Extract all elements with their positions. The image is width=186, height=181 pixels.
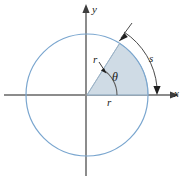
circle-sector-diagram: y x r r θ s xyxy=(0,0,186,181)
radius-upper-label: r xyxy=(93,54,97,65)
x-axis-label: x xyxy=(174,88,179,99)
arc-length-label: s xyxy=(149,53,153,64)
theta-label: θ xyxy=(112,71,118,83)
radius-lower-label: r xyxy=(107,97,111,108)
y-axis-arrowhead xyxy=(82,4,89,13)
diagram-canvas xyxy=(0,0,186,181)
y-axis-label: y xyxy=(92,4,97,15)
arc-arrow-head-lower xyxy=(153,86,160,95)
